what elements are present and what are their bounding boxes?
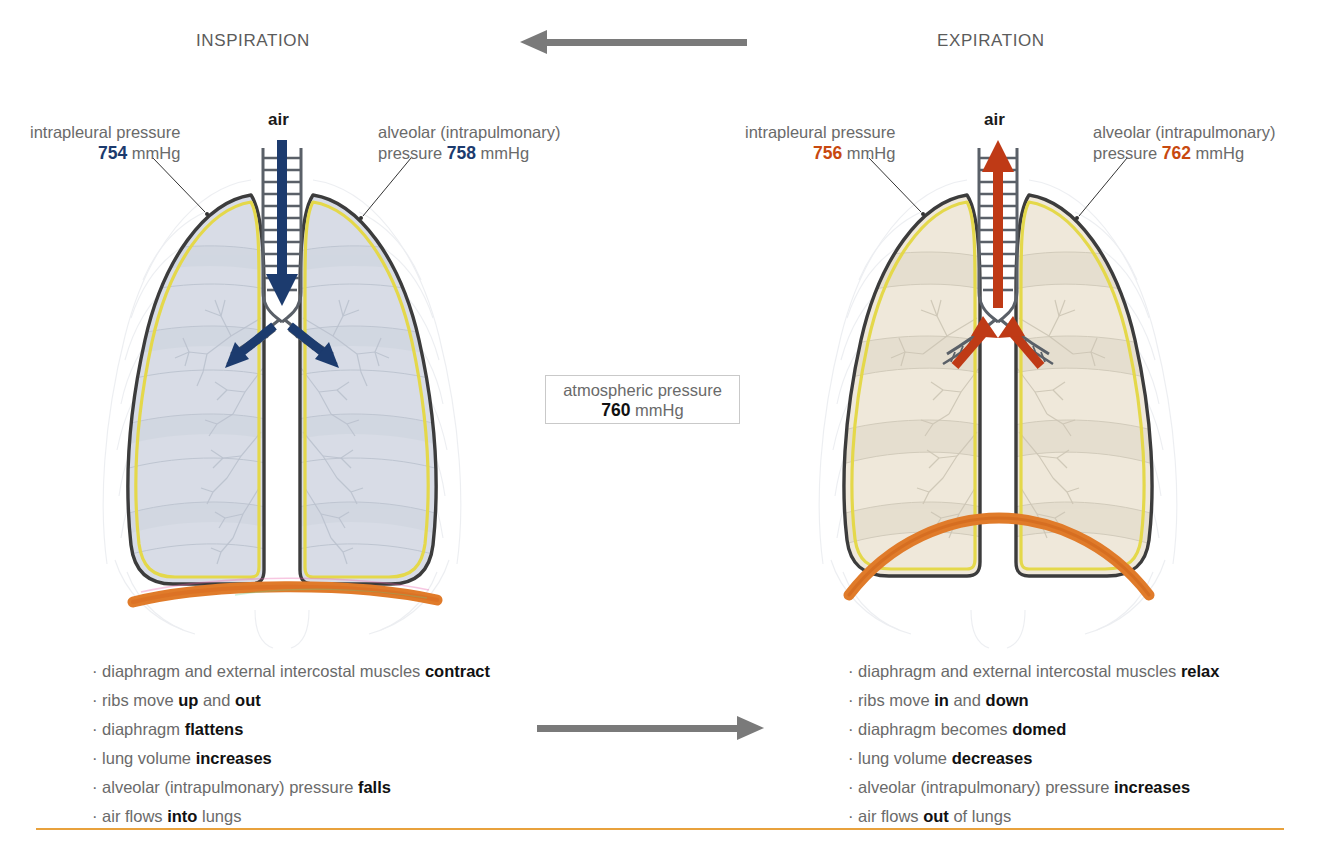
atmospheric-value-row: 760 mmHg	[601, 400, 683, 420]
list-item: · alveolar (intrapulmonary) pressure inc…	[848, 773, 1219, 802]
cycle-arrow-right-icon	[537, 713, 764, 743]
air-label-inspiration: air	[268, 110, 289, 130]
unit: mmHg	[1196, 144, 1245, 162]
label-value-row: pressure 762 mmHg	[1093, 143, 1276, 164]
value: 758	[447, 143, 476, 163]
label-text-line2: pressure	[1093, 144, 1157, 162]
label-alveolar-expiration: alveolar (intrapulmonary) pressure 762 m…	[1093, 122, 1276, 164]
label-text: intrapleural pressure	[30, 122, 180, 143]
label-intrapleural-inspiration: intrapleural pressure 754 mmHg	[30, 122, 180, 164]
value: 762	[1162, 143, 1191, 163]
arrow-shaft	[537, 725, 738, 732]
list-item: · air flows into lungs	[92, 802, 490, 831]
arrow-head	[520, 30, 547, 54]
list-item: · air flows out of lungs	[848, 802, 1219, 831]
value: 754	[98, 143, 127, 163]
cycle-arrow-left-icon	[520, 27, 747, 57]
bullet-list-inspiration: · diaphragm and external intercostal mus…	[92, 657, 490, 831]
atmospheric-value: 760	[601, 400, 630, 420]
atmospheric-unit: mmHg	[635, 401, 684, 419]
label-value-row: 754 mmHg	[30, 143, 180, 164]
lung-left-inspiration	[107, 195, 270, 584]
list-item: · alveolar (intrapulmonary) pressure fal…	[92, 773, 490, 802]
unit: mmHg	[132, 144, 181, 162]
list-item: · diaphragm flattens	[92, 715, 490, 744]
label-value-row: pressure 758 mmHg	[378, 143, 561, 164]
label-alveolar-inspiration: alveolar (intrapulmonary) pressure 758 m…	[378, 122, 561, 164]
list-item: · diaphragm and external intercostal mus…	[92, 657, 490, 686]
list-item: · lung volume decreases	[848, 744, 1219, 773]
atmospheric-pressure-box: atmospheric pressure 760 mmHg	[545, 375, 740, 424]
air-label-expiration: air	[984, 110, 1005, 130]
list-item: · diaphragm becomes domed	[848, 715, 1219, 744]
label-intrapleural-expiration: intrapleural pressure 756 mmHg	[745, 122, 895, 164]
arrow-head	[737, 716, 764, 740]
expiration-illustration	[771, 140, 1319, 660]
label-text: intrapleural pressure	[745, 122, 895, 143]
atmospheric-label: atmospheric pressure	[563, 380, 722, 400]
list-item: · ribs move up and out	[92, 686, 490, 715]
list-item: · diaphragm and external intercostal mus…	[848, 657, 1219, 686]
label-value-row: 756 mmHg	[745, 143, 895, 164]
label-text-line1: alveolar (intrapulmonary)	[1093, 122, 1276, 143]
value: 756	[813, 143, 842, 163]
inspiration-illustration	[55, 140, 615, 660]
respiration-diagram: INSPIRATION EXPIRATION	[0, 0, 1319, 845]
unit: mmHg	[847, 144, 896, 162]
bullet-list-expiration: · diaphragm and external intercostal mus…	[848, 657, 1219, 831]
label-text-line2: pressure	[378, 144, 442, 162]
phase-title-expiration: EXPIRATION	[937, 31, 1045, 51]
bottom-divider	[36, 828, 1284, 830]
list-item: · lung volume increases	[92, 744, 490, 773]
arrow-shaft	[546, 39, 747, 46]
list-item: · ribs move in and down	[848, 686, 1219, 715]
unit: mmHg	[481, 144, 530, 162]
lung-right-inspiration	[294, 195, 457, 584]
phase-title-inspiration: INSPIRATION	[196, 31, 310, 51]
label-text-line1: alveolar (intrapulmonary)	[378, 122, 561, 143]
